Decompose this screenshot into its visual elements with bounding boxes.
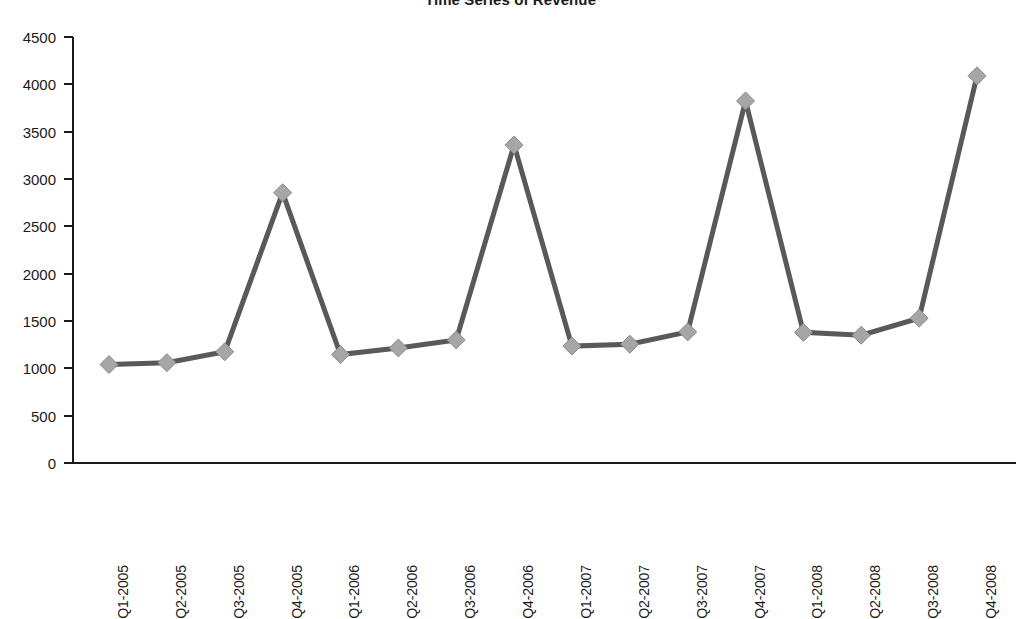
y-axis-tick bbox=[64, 273, 73, 275]
data-point-marker bbox=[679, 323, 697, 341]
x-axis-label: Q4-2006 bbox=[520, 565, 536, 619]
y-axis-label: 4500 bbox=[0, 29, 56, 46]
x-axis-label: Q1-2005 bbox=[115, 565, 131, 619]
y-axis-tick bbox=[64, 462, 73, 464]
data-point-marker bbox=[852, 326, 870, 344]
y-axis-label: 2000 bbox=[0, 265, 56, 282]
y-axis-tick bbox=[64, 225, 73, 227]
y-axis-label: 500 bbox=[0, 407, 56, 424]
y-axis-tick bbox=[64, 415, 73, 417]
data-point-marker bbox=[968, 67, 986, 85]
x-axis-label: Q1-2008 bbox=[809, 565, 825, 619]
y-axis-label: 2500 bbox=[0, 218, 56, 235]
x-axis-label: Q4-2008 bbox=[983, 565, 999, 619]
y-axis-line bbox=[72, 37, 74, 464]
y-axis-label: 0 bbox=[0, 455, 56, 472]
revenue-line bbox=[109, 76, 977, 365]
y-axis-tick bbox=[64, 367, 73, 369]
y-axis-tick bbox=[64, 178, 73, 180]
y-axis-tick bbox=[64, 83, 73, 85]
y-axis-tick bbox=[64, 36, 73, 38]
data-point-marker bbox=[737, 92, 755, 110]
x-axis-label: Q3-2007 bbox=[694, 565, 710, 619]
x-axis-label: Q1-2006 bbox=[346, 565, 362, 619]
x-axis-label: Q2-2006 bbox=[404, 565, 420, 619]
x-axis-label: Q4-2005 bbox=[289, 565, 305, 619]
x-axis-line bbox=[72, 462, 1016, 464]
data-point-marker bbox=[389, 339, 407, 357]
data-point-marker bbox=[505, 136, 523, 154]
x-axis-label: Q1-2007 bbox=[578, 565, 594, 619]
data-point-marker bbox=[158, 354, 176, 372]
data-point-marker bbox=[331, 346, 349, 364]
x-axis-label: Q2-2007 bbox=[636, 565, 652, 619]
y-axis-label: 3500 bbox=[0, 123, 56, 140]
x-axis-label: Q3-2006 bbox=[462, 565, 478, 619]
data-point-marker bbox=[910, 309, 928, 327]
data-point-marker bbox=[621, 335, 639, 353]
y-axis-label: 1500 bbox=[0, 313, 56, 330]
x-axis-label: Q4-2007 bbox=[752, 565, 768, 619]
data-point-marker bbox=[100, 356, 118, 374]
y-axis-label: 3000 bbox=[0, 171, 56, 188]
data-point-marker bbox=[216, 343, 234, 361]
x-axis-label: Q2-2005 bbox=[173, 565, 189, 619]
data-point-marker bbox=[794, 323, 812, 341]
x-axis-label: Q3-2005 bbox=[231, 565, 247, 619]
data-point-marker bbox=[274, 184, 292, 202]
y-axis-tick bbox=[64, 320, 73, 322]
x-axis-label: Q3-2008 bbox=[925, 565, 941, 619]
y-axis-label: 4000 bbox=[0, 76, 56, 93]
data-point-marker bbox=[447, 331, 465, 349]
revenue-markers bbox=[100, 67, 986, 374]
y-axis-tick bbox=[64, 131, 73, 133]
x-axis-label: Q2-2008 bbox=[867, 565, 883, 619]
y-axis-label: 1000 bbox=[0, 360, 56, 377]
data-point-marker bbox=[563, 337, 581, 355]
